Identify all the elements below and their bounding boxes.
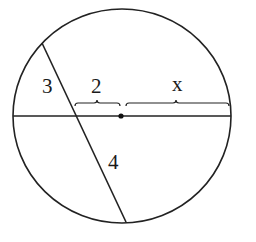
- diagram-canvas: 3 2 x 4: [0, 0, 256, 242]
- label-segment-3: 3: [42, 76, 53, 97]
- label-segment-x: x: [172, 74, 183, 95]
- brace-segment-x: [126, 100, 229, 106]
- brace-segment-2: [75, 100, 120, 106]
- circle-chord-diagram: [0, 0, 256, 242]
- label-segment-2: 2: [91, 76, 102, 97]
- center-point: [118, 113, 123, 118]
- slanted-chord: [42, 43, 126, 222]
- label-segment-4: 4: [108, 152, 119, 173]
